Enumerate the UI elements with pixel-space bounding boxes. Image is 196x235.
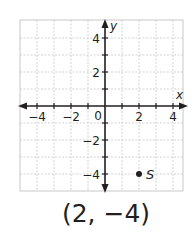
y-tick-label: 4 bbox=[92, 32, 100, 46]
y-tick-label: −2 bbox=[82, 134, 100, 148]
x-axis-label: x bbox=[175, 88, 184, 102]
y-axis-label: y bbox=[109, 19, 118, 33]
coordinate-caption: (2, −4) bbox=[0, 199, 196, 229]
x-tick-label: 2 bbox=[135, 110, 143, 124]
x-tick-label: −4 bbox=[28, 110, 46, 124]
point-label: S bbox=[146, 167, 154, 182]
x-tick-label: −2 bbox=[62, 110, 80, 124]
origin-label: 0 bbox=[94, 109, 102, 123]
x-axis-left-arrow-icon bbox=[18, 103, 27, 110]
point-s bbox=[136, 171, 142, 177]
y-tick-label: −4 bbox=[82, 168, 100, 182]
y-axis-down-arrow-icon bbox=[102, 184, 109, 193]
coordinate-plane: −4−224042−2−4 x y S bbox=[0, 0, 196, 200]
x-tick-label: 4 bbox=[169, 110, 177, 124]
axes bbox=[18, 19, 188, 193]
y-tick-label: 2 bbox=[92, 66, 100, 80]
data-points: S bbox=[136, 167, 154, 182]
